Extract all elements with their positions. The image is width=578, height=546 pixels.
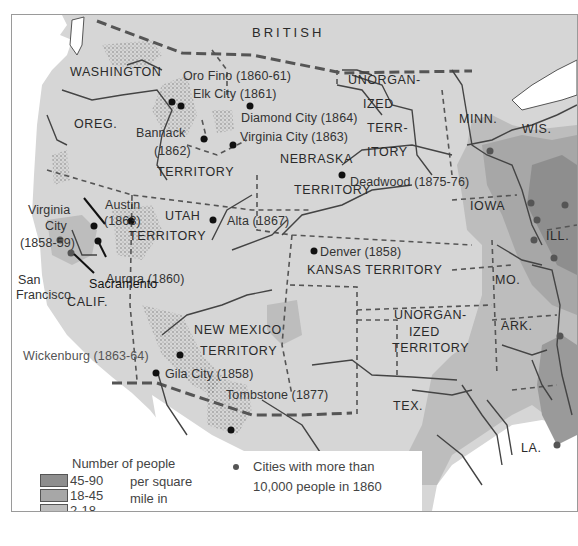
legend-class-2-18: 2-18 bbox=[40, 503, 96, 512]
legend-class-18-45: 18-45 bbox=[40, 488, 103, 502]
legend-unit-line: 1860 bbox=[130, 507, 192, 512]
label-oreg: OREG. bbox=[74, 118, 117, 131]
label-kansas-territory: KANSAS TERRITORY bbox=[307, 264, 442, 277]
label-unorganized-n3: TERR- bbox=[367, 122, 408, 135]
swatch-icon bbox=[40, 489, 68, 502]
city-virginia-city-nv-2: City bbox=[45, 220, 67, 233]
legend-cities: Cities with more than 10,000 people in 1… bbox=[253, 457, 382, 497]
label-british: BRITISH bbox=[252, 26, 324, 39]
city-deadwood: Deadwood (1875-76) bbox=[350, 176, 469, 189]
city-virginia-city-nv-3: (1858-59) bbox=[20, 237, 75, 250]
legend-class-label: 45-90 bbox=[70, 473, 103, 488]
label-unorganized-n2: IZED bbox=[363, 98, 394, 111]
legend-ore-label: Ore area bbox=[253, 508, 304, 512]
map-legend: Number of people per square mile in 1860… bbox=[24, 451, 422, 512]
label-unorganized-s3: TERRITORY bbox=[392, 342, 469, 355]
label-utah-territory: TERRITORY bbox=[129, 230, 206, 243]
swatch-icon bbox=[40, 474, 68, 487]
label-unorganized-n4: ITORY bbox=[367, 146, 408, 159]
city-diamond-city: Diamond City (1864) bbox=[241, 112, 358, 125]
city-austin-year: (1863) bbox=[104, 215, 141, 228]
label-new-mexico: NEW MEXICO bbox=[194, 324, 282, 337]
label-new-mexico-territory: TERRITORY bbox=[200, 345, 277, 358]
city-austin: Austin bbox=[105, 199, 140, 212]
city-tombstone: Tombstone (1877) bbox=[226, 389, 328, 402]
label-unorganized-s1: UNORGAN- bbox=[394, 309, 467, 322]
city-bannack-year: (1862) bbox=[154, 145, 191, 158]
label-unorganized-n1: UNORGAN- bbox=[348, 74, 421, 87]
label-nebraska: NEBRASKA bbox=[280, 153, 353, 166]
city-alta: Alta (1867) bbox=[227, 215, 289, 228]
label-ark: ARK. bbox=[501, 320, 533, 333]
legend-unit-line: per square bbox=[130, 473, 192, 490]
label-iowa: IOWA bbox=[470, 200, 505, 213]
swatch-icon bbox=[40, 504, 68, 513]
city-virginia-city-nv-1: Virginia bbox=[28, 204, 70, 217]
ore-dots-icon bbox=[232, 511, 246, 512]
legend-class-label: 2-18 bbox=[70, 503, 96, 513]
legend-unit-line: mile in bbox=[130, 490, 192, 507]
city-bannack: Bannack bbox=[136, 127, 185, 140]
map-frame: BRITISH WASHINGTON OREG. TERRITORY UNORG… bbox=[11, 14, 578, 512]
label-mo: MO. bbox=[495, 274, 520, 287]
label-tex: TEX. bbox=[393, 400, 423, 413]
city-san-francisco-1: San bbox=[18, 274, 41, 287]
legend-cities-line: 10,000 people in 1860 bbox=[253, 477, 382, 497]
ore-area bbox=[52, 150, 70, 185]
legend-class-45-90: 45-90 bbox=[40, 473, 103, 487]
label-unorganized-s2: IZED bbox=[409, 326, 440, 339]
legend-density-title: Number of people bbox=[72, 456, 175, 471]
map-canvas bbox=[12, 15, 577, 511]
label-minn: MINN. bbox=[459, 113, 497, 126]
legend-cities-line: Cities with more than bbox=[253, 457, 382, 477]
label-la: LA. bbox=[521, 442, 542, 455]
city-virginia-city-mt: Virginia City (1863) bbox=[240, 131, 348, 144]
label-wis: WIS. bbox=[522, 123, 551, 136]
label-ill: ILL. bbox=[546, 230, 569, 243]
city-oro-fino: Oro Fino (1860-61) bbox=[183, 70, 291, 83]
label-washington: WASHINGTON bbox=[70, 66, 161, 79]
legend-density-unit: per square mile in 1860 bbox=[130, 473, 192, 512]
city-wickenburg: Wickenburg (1863-64) bbox=[23, 350, 149, 363]
city-denver: Denver (1858) bbox=[320, 246, 401, 259]
label-territory-wa: TERRITORY bbox=[157, 166, 234, 179]
city-san-francisco-2: Francisco bbox=[16, 289, 71, 302]
city-sacramento: Sacramento bbox=[89, 278, 157, 291]
page-top-margin bbox=[0, 0, 578, 14]
legend-class-label: 18-45 bbox=[70, 488, 103, 503]
city-dot-icon bbox=[233, 464, 239, 470]
city-elk-city: Elk City (1861) bbox=[193, 88, 276, 101]
city-gila-city: Gila City (1858) bbox=[165, 368, 253, 381]
label-utah: UTAH bbox=[165, 210, 201, 223]
label-calif: CALIF. bbox=[67, 296, 108, 309]
